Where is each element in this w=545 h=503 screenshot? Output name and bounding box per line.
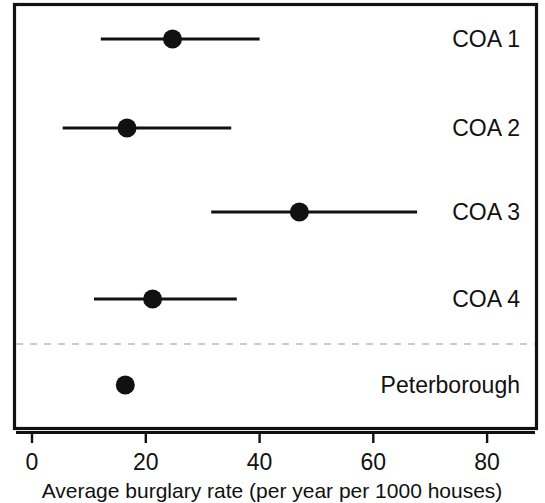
point-marker <box>116 376 135 395</box>
row-label-coa-3: COA 3 <box>452 199 520 225</box>
x-tick-label-80: 80 <box>474 449 500 475</box>
row-label-coa-4: COA 4 <box>452 286 520 312</box>
row-label-coa-2: COA 2 <box>452 115 520 141</box>
burglary-rate-chart: COA 1 COA 2 COA 3 COA 4 Peterborough 0 2… <box>0 0 545 503</box>
row-label-peterborough: Peterborough <box>381 372 520 398</box>
data-row-peterborough <box>116 376 135 395</box>
point-marker <box>143 290 162 309</box>
x-tick-label-0: 0 <box>26 449 39 475</box>
point-marker <box>163 30 182 49</box>
x-tick-label-60: 60 <box>361 449 387 475</box>
chart-svg: COA 1 COA 2 COA 3 COA 4 Peterborough 0 2… <box>0 0 545 503</box>
row-label-coa-1: COA 1 <box>452 26 520 52</box>
point-marker <box>118 119 137 138</box>
x-axis-title: Average burglary rate (per year per 1000… <box>42 479 503 502</box>
point-marker <box>290 203 309 222</box>
x-tick-label-20: 20 <box>133 449 159 475</box>
x-tick-label-40: 40 <box>247 449 273 475</box>
